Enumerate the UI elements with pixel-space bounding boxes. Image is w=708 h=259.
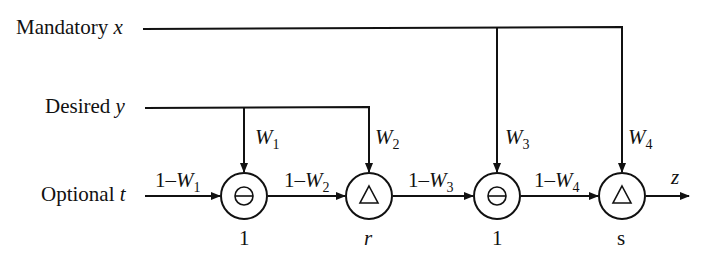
weight-sub: 4	[646, 137, 653, 152]
complement-prefix: 1–	[284, 168, 305, 192]
complement-label-2: 1–W2	[284, 170, 330, 195]
weight-letter: W	[628, 125, 646, 149]
weight-label-w1: W1	[255, 127, 280, 152]
input-var: y	[116, 94, 125, 118]
weight-sub: 3	[523, 137, 530, 152]
input-name: Optional	[41, 182, 115, 206]
weight-label-w4: W4	[628, 127, 653, 152]
complement-sub: 3	[447, 180, 454, 195]
weight-sub: 2	[393, 137, 400, 152]
complement-letter: W	[429, 168, 447, 192]
node-4-param: s	[617, 228, 625, 249]
input-name: Desired	[45, 94, 110, 118]
minus-circle-icon	[235, 187, 253, 205]
node-4-circle	[599, 173, 645, 219]
minus-circle-icon	[488, 187, 506, 205]
complement-label-3: 1–W3	[408, 170, 454, 195]
triangle-icon	[613, 186, 631, 203]
weight-letter: W	[375, 125, 393, 149]
weight-label-w3: W3	[505, 127, 530, 152]
complement-letter: W	[176, 168, 194, 192]
node-3-param: 1	[492, 228, 503, 249]
weight-label-w2: W2	[375, 127, 400, 152]
complement-prefix: 1–	[534, 168, 555, 192]
output-label: z	[671, 167, 679, 188]
weight-sub: 1	[273, 137, 280, 152]
aggregation-diagram: Mandatory x Desired y Optional t W1 W2 W…	[0, 0, 708, 259]
complement-sub: 2	[323, 180, 330, 195]
input-name: Mandatory	[16, 15, 108, 39]
weight-letter: W	[505, 125, 523, 149]
complement-prefix: 1–	[155, 168, 176, 192]
complement-label-4: 1–W4	[534, 170, 580, 195]
complement-letter: W	[555, 168, 573, 192]
input-label-desired: Desired y	[45, 96, 125, 117]
input-var: x	[113, 15, 122, 39]
input-label-optional: Optional t	[41, 184, 126, 205]
complement-label-1: 1–W1	[155, 170, 201, 195]
complement-sub: 4	[573, 180, 580, 195]
weight-letter: W	[255, 125, 273, 149]
node-2-param: r	[364, 228, 372, 249]
input-var: t	[120, 182, 126, 206]
complement-sub: 1	[194, 180, 201, 195]
triangle-icon	[360, 186, 378, 203]
complement-prefix: 1–	[408, 168, 429, 192]
complement-letter: W	[305, 168, 323, 192]
node-1-param: 1	[239, 228, 250, 249]
node-2-circle	[346, 173, 392, 219]
input-label-mandatory: Mandatory x	[16, 17, 123, 38]
